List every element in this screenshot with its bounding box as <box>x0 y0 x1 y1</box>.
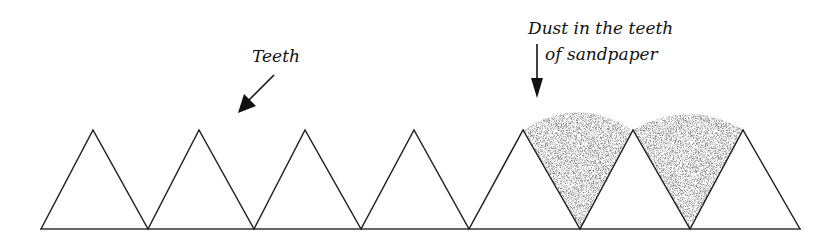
dust-fill-1 <box>523 113 633 230</box>
dust-arrow-icon <box>531 44 543 98</box>
dust-fill-2 <box>633 114 743 229</box>
dust-label-line1: Dust in the teeth <box>528 20 673 37</box>
teeth-arrow-icon <box>238 75 274 113</box>
dust-label-line2: of sandpaper <box>545 46 658 63</box>
sandpaper-teeth-diagram <box>0 0 837 241</box>
teeth-label: Teeth <box>252 48 300 65</box>
